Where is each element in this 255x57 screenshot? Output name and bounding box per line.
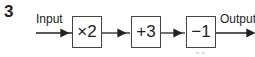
operation-label: +3: [136, 22, 155, 42]
flow-arrows: [0, 0, 255, 57]
cropped-text-fragment: " ": [196, 50, 205, 57]
operation-box-subtract: −1: [186, 16, 216, 48]
operation-box-multiply: ×2: [72, 16, 102, 48]
operation-box-add: +3: [131, 16, 161, 48]
operation-label: ×2: [77, 22, 96, 42]
operation-label: −1: [191, 22, 210, 42]
